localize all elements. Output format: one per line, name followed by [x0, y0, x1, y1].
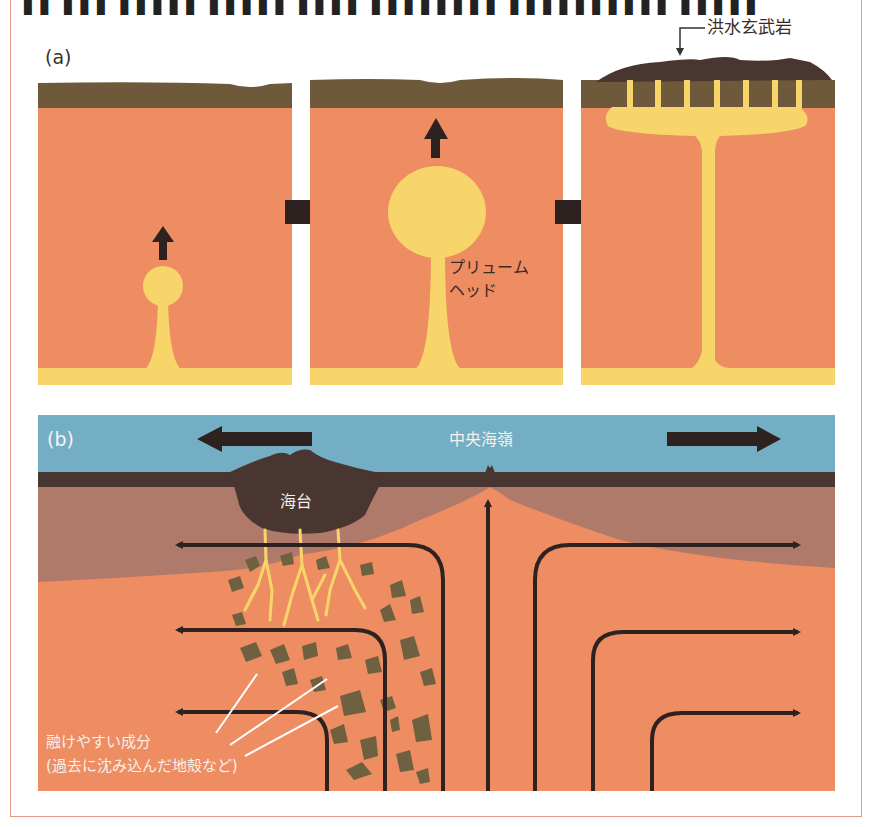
fusible-component-label-line1: 融けやすい成分 [46, 733, 151, 751]
panel-b [38, 415, 835, 791]
flood-basalt-label: 洪水玄武岩 [707, 17, 792, 37]
diagram-canvas [0, 0, 877, 827]
panel-a-label: (a) [45, 46, 71, 69]
plume-head-label-line2: ヘッド [449, 281, 497, 300]
mid-ocean-ridge-label: 中央海嶺 [449, 430, 513, 449]
oceanic-plateau-label: 海台 [280, 492, 312, 511]
panel-a-stage-3 [581, 28, 835, 385]
panel-b-label: (b) [47, 428, 74, 451]
flood-basalt-pointer-icon [676, 28, 705, 56]
fusible-component-label-line2: (過去に沈み込んだ地殻など) [46, 757, 238, 775]
panel-a-stage-1 [38, 82, 292, 385]
plume-head-label-line1: プリューム [449, 258, 529, 277]
panel-a-stage-2 [310, 78, 563, 385]
